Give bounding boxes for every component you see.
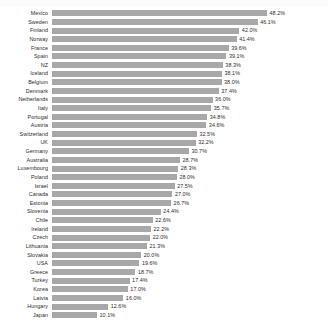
bar-track: 28.7% <box>52 156 328 165</box>
bar <box>52 183 175 189</box>
bar-row: Spain39.1% <box>0 52 328 61</box>
category-label: USA <box>0 259 52 268</box>
category-label: Israel <box>0 182 52 191</box>
bar-row: USA19.6% <box>0 259 328 268</box>
bar-track: 27.5% <box>52 182 328 191</box>
bar <box>52 105 211 111</box>
bar-track: 19.6% <box>52 259 328 268</box>
category-label: Poland <box>0 173 52 182</box>
bar-row: Turkey17.4% <box>0 276 328 285</box>
bar <box>52 140 196 146</box>
bar <box>52 97 213 103</box>
bar-row: Denmark37.4% <box>0 87 328 96</box>
bar-row: Slovakia20.0% <box>0 251 328 260</box>
value-label: 36.0% <box>213 95 231 104</box>
bar-track: 41.4% <box>52 35 328 44</box>
bar <box>52 62 223 68</box>
category-label: Ireland <box>0 225 52 234</box>
category-label: Norway <box>0 35 52 44</box>
bar-row: Slovenia24.4% <box>0 207 328 216</box>
bar-row: Israel27.5% <box>0 182 328 191</box>
category-label: Greece <box>0 268 52 277</box>
value-label: 27.0% <box>172 190 190 199</box>
value-label: 37.4% <box>219 87 237 96</box>
category-label: Latvia <box>0 294 52 303</box>
category-label: Luxembourg <box>0 164 52 173</box>
bar-row: Chile22.6% <box>0 216 328 225</box>
value-label: 28.3% <box>178 164 196 173</box>
category-label: Lithuania <box>0 242 52 251</box>
bar-row: Hungary12.6% <box>0 302 328 311</box>
bar <box>52 226 151 232</box>
bar-track: 34.8% <box>52 113 328 122</box>
bar-track: 17.4% <box>52 276 328 285</box>
category-label: Slovenia <box>0 207 52 216</box>
category-label: Canada <box>0 190 52 199</box>
category-label: Japan <box>0 311 52 320</box>
bar-track: 24.4% <box>52 207 328 216</box>
bar-row: UK32.2% <box>0 138 328 147</box>
bar <box>52 191 172 197</box>
bar <box>52 114 207 120</box>
bar-row: Portugal34.8% <box>0 113 328 122</box>
bar-track: 32.5% <box>52 130 328 139</box>
category-label: Sweden <box>0 18 52 27</box>
category-label: Australia <box>0 156 52 165</box>
value-label: 38.0% <box>222 78 240 87</box>
bar-row: Lithuania21.3% <box>0 242 328 251</box>
category-label: Germany <box>0 147 52 156</box>
category-label: Italy <box>0 104 52 113</box>
bar-row: Switzerland32.5% <box>0 130 328 139</box>
category-label: Denmark <box>0 87 52 96</box>
bar <box>52 71 222 77</box>
category-label: Mexico <box>0 9 52 18</box>
bar-row: Canada27.0% <box>0 190 328 199</box>
bar-track: 39.1% <box>52 52 328 61</box>
value-label: 18.7% <box>135 268 153 277</box>
bar-track: 12.6% <box>52 302 328 311</box>
value-label: 30.7% <box>189 147 207 156</box>
bar <box>52 28 239 34</box>
category-label: Portugal <box>0 113 52 122</box>
bar-track: 10.1% <box>52 311 328 320</box>
category-label: Netherlands <box>0 95 52 104</box>
value-label: 27.5% <box>175 182 193 191</box>
value-label: 24.4% <box>161 207 179 216</box>
value-label: 19.6% <box>139 259 157 268</box>
bar <box>52 131 197 137</box>
value-label: 28.7% <box>180 156 198 165</box>
chart-top-band <box>0 0 328 7</box>
bar-track: 22.6% <box>52 216 328 225</box>
bar <box>52 260 139 266</box>
bar-track: 30.7% <box>52 147 328 156</box>
bar <box>52 278 130 284</box>
bar <box>52 174 177 180</box>
value-label: 17.0% <box>128 285 146 294</box>
value-label: 20.0% <box>141 251 159 260</box>
value-label: 34.8% <box>207 113 225 122</box>
value-label: 39.6% <box>229 44 247 53</box>
bar-row: Austria34.6% <box>0 121 328 130</box>
bar-row: France39.6% <box>0 44 328 53</box>
bar <box>52 295 123 301</box>
category-label: Estonia <box>0 199 52 208</box>
bar-row: Germany30.7% <box>0 147 328 156</box>
bar-row: Greece18.7% <box>0 268 328 277</box>
bar-track: 32.2% <box>52 138 328 147</box>
bar <box>52 304 108 310</box>
bar <box>52 19 258 25</box>
category-label: Iceland <box>0 69 52 78</box>
value-label: 41.4% <box>237 35 255 44</box>
bar-row: Czech22.0% <box>0 233 328 242</box>
bar-row: Korea17.0% <box>0 285 328 294</box>
bar-row: Ireland22.2% <box>0 225 328 234</box>
bar <box>52 312 97 318</box>
bar-row: Estonia26.7% <box>0 199 328 208</box>
bar-track: 26.7% <box>52 199 328 208</box>
bar-row: Finland42.0% <box>0 26 328 35</box>
category-label: NZ <box>0 61 52 70</box>
bar <box>52 122 206 128</box>
bar-track: 28.0% <box>52 173 328 182</box>
bar-row: Norway41.4% <box>0 35 328 44</box>
bar <box>52 235 150 241</box>
